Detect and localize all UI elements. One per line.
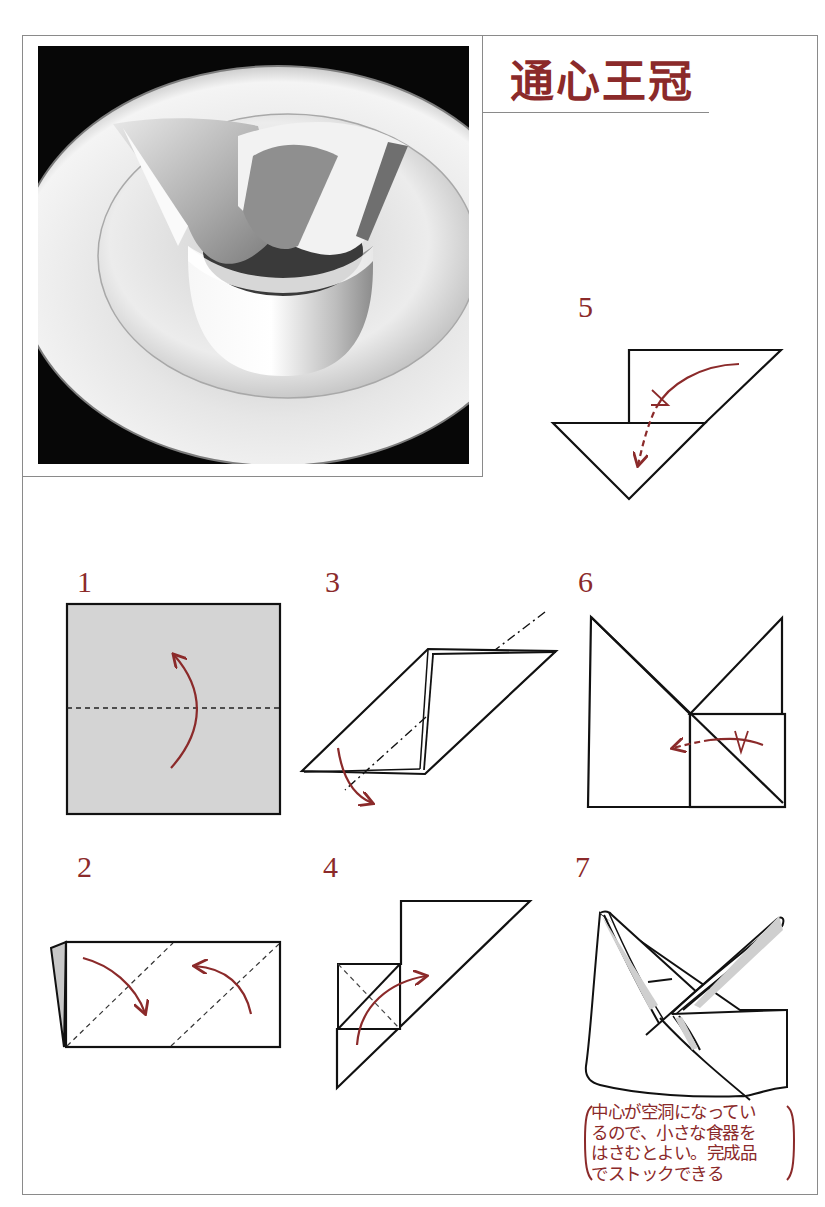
step-7-diagram [586,912,787,1100]
step-3-diagram [302,612,556,803]
note-line: はさむとよい。完成品 [591,1143,791,1164]
step-4-diagram [337,901,530,1088]
step-2-diagram [51,942,280,1047]
folding-diagrams [0,0,825,1207]
step-1-diagram [67,604,280,814]
note-line: でストックできる [591,1164,791,1185]
note-line: 中心が空洞になってい [591,1102,791,1123]
note-line: るので、小さな食器を [591,1123,791,1144]
step-6-diagram [588,617,785,807]
step-5-diagram [553,350,781,499]
note-text: 中心が空洞になってい るので、小さな食器を はさむとよい。完成品 でストックでき… [591,1102,791,1184]
